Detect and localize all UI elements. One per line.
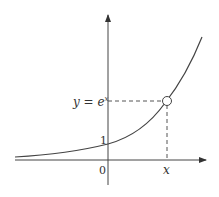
origin-label: 0: [99, 164, 106, 177]
exponential-graph: y = ex 1 0 x: [0, 0, 219, 197]
curve-label: y = ex: [72, 95, 109, 109]
point-marker: [163, 97, 172, 106]
x-point-label: x: [163, 163, 170, 177]
y-intercept-label: 1: [100, 134, 107, 147]
